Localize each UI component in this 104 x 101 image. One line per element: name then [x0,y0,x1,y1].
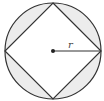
circle-inscribed-square-diagram: r [0,0,104,101]
center-point [51,49,55,53]
